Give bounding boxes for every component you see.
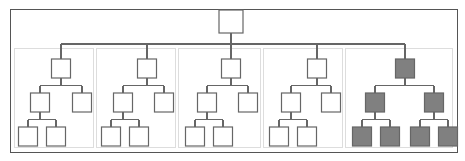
- tree-diagram-canvas: [0, 0, 465, 161]
- subtree-group-3-child-left-node[interactable]: [198, 93, 217, 112]
- subtree-group-5-highlighted-leaf-rr-node[interactable]: [439, 127, 458, 146]
- subtree-group-3-root-node[interactable]: [222, 59, 241, 78]
- subtree-group-2-root-node[interactable]: [138, 59, 157, 78]
- subtree-group-2-child-left-node[interactable]: [114, 93, 133, 112]
- subtree-group-4-child-right-node[interactable]: [322, 93, 341, 112]
- subtree-group-3-leaf-right-node[interactable]: [214, 127, 233, 146]
- subtree-group-2-leaf-right-node[interactable]: [130, 127, 149, 146]
- nodes-layer: [19, 10, 458, 146]
- subtree-group-3-leaf-left-node[interactable]: [186, 127, 205, 146]
- subtree-group-1-root-node[interactable]: [52, 59, 71, 78]
- subtree-group-1-child-right-node[interactable]: [73, 93, 92, 112]
- subtree-group-1-child-left-node[interactable]: [31, 93, 50, 112]
- subtree-group-5-highlighted-root-node[interactable]: [396, 59, 415, 78]
- subtree-group-1-leaf-left-node[interactable]: [19, 127, 38, 146]
- edges-layer: [28, 33, 448, 127]
- subtree-group-3-child-right-node[interactable]: [239, 93, 258, 112]
- subtree-group-1-leaf-right-node[interactable]: [47, 127, 66, 146]
- root-node[interactable]: [219, 10, 243, 33]
- subtree-group-5-highlighted-leaf-ll-node[interactable]: [353, 127, 372, 146]
- subtree-group-2-leaf-left-node[interactable]: [102, 127, 121, 146]
- subtree-group-4-leaf-right-node[interactable]: [298, 127, 317, 146]
- subtree-group-5-highlighted-child-left-node[interactable]: [366, 93, 385, 112]
- subtree-group-4-child-left-node[interactable]: [282, 93, 301, 112]
- subtree-group-5-highlighted-leaf-rl-node[interactable]: [411, 127, 430, 146]
- subtree-group-4-root-node[interactable]: [308, 59, 327, 78]
- subtree-group-2-child-right-node[interactable]: [155, 93, 174, 112]
- tree-diagram-figure: [0, 0, 465, 161]
- subtree-group-4-leaf-left-node[interactable]: [270, 127, 289, 146]
- subtree-group-5-highlighted-leaf-lr-node[interactable]: [381, 127, 400, 146]
- subtree-group-5-highlighted-child-right-node[interactable]: [425, 93, 444, 112]
